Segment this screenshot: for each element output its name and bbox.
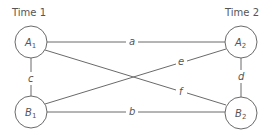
edge-b-label: b: [129, 106, 135, 117]
edge-e-line-right: [187, 49, 226, 61]
title-time-2: Time 2: [224, 7, 259, 18]
cross-lagged-diagram: Time 1 Time 2 A1 A2 B1 B2 a b c d e f: [0, 0, 272, 135]
edge-f-line-right: [187, 93, 226, 105]
diagram-svg: Time 1 Time 2 A1 A2 B1 B2 a b c d e f: [0, 0, 272, 135]
edge-d-label: d: [238, 71, 245, 82]
edge-a-label: a: [129, 36, 135, 47]
title-time-1: Time 1: [11, 7, 46, 18]
edge-f-label: f: [179, 86, 184, 97]
edge-c-label: c: [28, 73, 34, 84]
edge-e-label: e: [178, 56, 184, 67]
